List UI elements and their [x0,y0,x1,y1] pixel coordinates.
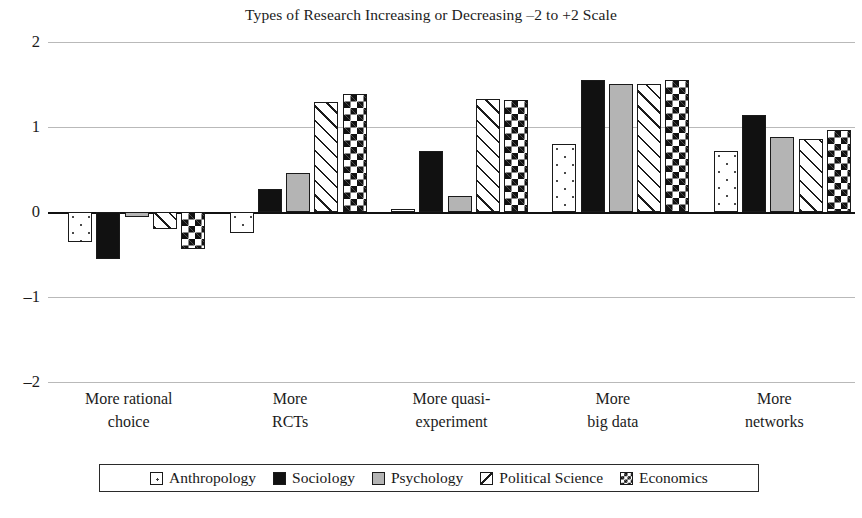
bar-political-science-more-networks [799,139,823,212]
x-axis-label-more-rational-choice: More rationalchoice [48,388,209,433]
x-axis-label-line: More quasi- [371,388,532,411]
y-axis-tick-label: –1 [8,287,40,307]
legend-item-psychology[interactable]: Psychology [372,469,463,487]
x-axis-label-more-big-data: Morebig data [532,388,693,433]
bar-anthropology-more-networks [714,151,738,212]
x-axis-label-line: More rational [48,388,209,411]
bar-group-more-quasi-experiment [391,42,528,382]
bar-sociology-more-big-data [581,80,605,212]
x-axis-label-line: RCTs [209,411,370,434]
bar-economics-more-networks [827,130,851,212]
bar-psychology-more-rcts [286,173,310,212]
bar-group-more-networks [714,42,851,382]
x-axis-label-line: More [694,388,855,411]
plot-area [48,42,855,382]
bar-sociology-more-networks [742,115,766,212]
bar-sociology-more-rational-choice [96,212,120,259]
legend-label: Psychology [391,469,463,487]
bar-economics-more-quasi-experiment [504,100,528,212]
bar-sociology-more-rcts [258,189,282,212]
y-axis-tick-label: 0 [8,202,40,222]
y-axis-tick-label: 1 [8,117,40,137]
x-axis-label-line: big data [532,411,693,434]
legend-swatch-sociology-icon [273,472,286,485]
x-axis-label-line: networks [694,411,855,434]
legend-label: Anthropology [169,469,256,487]
bar-anthropology-more-big-data [552,144,576,212]
bar-psychology-more-networks [770,137,794,212]
bar-anthropology-more-rational-choice [68,212,92,242]
bar-sociology-more-quasi-experiment [419,151,443,212]
chart-title: Types of Research Increasing or Decreasi… [0,6,862,24]
legend-swatch-political-science-icon [480,472,493,485]
bar-group-more-rational-choice [68,42,205,382]
bar-economics-more-rational-choice [181,212,205,249]
bar-political-science-more-big-data [637,84,661,212]
bar-series-container [48,42,855,382]
bar-economics-more-big-data [665,80,689,212]
x-axis-label-line: More [209,388,370,411]
bar-psychology-more-rational-choice [125,212,149,217]
x-axis-label-line: choice [48,411,209,434]
bar-political-science-more-rcts [314,102,338,213]
bar-psychology-more-quasi-experiment [448,196,472,212]
legend-swatch-psychology-icon [372,472,385,485]
legend-swatch-anthropology-icon [150,472,163,485]
chart-container: Types of Research Increasing or Decreasi… [0,0,862,518]
bar-political-science-more-rational-choice [153,212,177,229]
legend-item-sociology[interactable]: Sociology [273,469,355,487]
y-axis-tick-label: 2 [8,32,40,52]
x-axis-label-more-rcts: MoreRCTs [209,388,370,433]
legend-swatch-economics-icon [620,472,633,485]
legend-label: Economics [639,469,708,487]
x-axis-label-line: experiment [371,411,532,434]
x-axis-label-line: More [532,388,693,411]
legend-item-political-science[interactable]: Political Science [480,469,603,487]
bar-group-more-big-data [552,42,689,382]
y-axis-tick-label: –2 [8,372,40,392]
x-axis-label-more-networks: Morenetworks [694,388,855,433]
legend-label: Political Science [499,469,603,487]
legend-label: Sociology [292,469,355,487]
x-axis-label-more-quasi-experiment: More quasi-experiment [371,388,532,433]
bar-economics-more-rcts [343,94,367,212]
bar-group-more-rcts [230,42,367,382]
bar-political-science-more-quasi-experiment [476,99,500,212]
bar-psychology-more-big-data [609,84,633,212]
legend-item-anthropology[interactable]: Anthropology [150,469,256,487]
x-axis-category-labels: More rationalchoiceMoreRCTsMore quasi-ex… [48,388,855,448]
gridline-neg2 [48,382,855,383]
bar-anthropology-more-rcts [230,212,254,233]
chart-legend: AnthropologySociologyPsychologyPolitical… [99,464,759,492]
bar-anthropology-more-quasi-experiment [391,209,415,212]
legend-item-economics[interactable]: Economics [620,469,708,487]
